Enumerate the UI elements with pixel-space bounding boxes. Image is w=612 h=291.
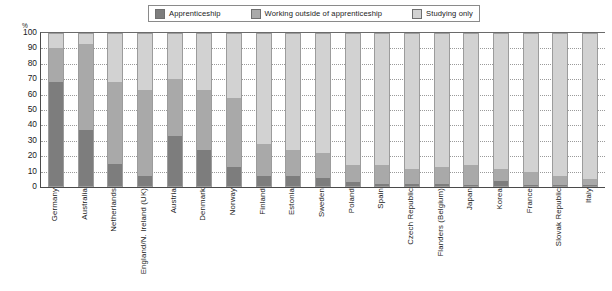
- bar-column[interactable]: [167, 33, 183, 187]
- bar-segment: [552, 185, 568, 187]
- bar-segment: [404, 33, 420, 169]
- x-label-column: Italy: [581, 188, 597, 203]
- x-label-column: Spain: [373, 188, 389, 209]
- bar-segment: [78, 130, 94, 187]
- x-tick-label: Czech Republic: [407, 188, 415, 245]
- bar-segment: [463, 165, 479, 185]
- bar-segment: [285, 150, 301, 176]
- bar-segment: [137, 33, 153, 90]
- bar-segment: [463, 33, 479, 165]
- bar-column[interactable]: [256, 33, 272, 187]
- bar-segment: [196, 90, 212, 150]
- x-label-column: Korea: [492, 188, 508, 210]
- legend-swatch-studying-only: [412, 9, 422, 19]
- legend-item-studying-only: Studying only: [412, 9, 473, 19]
- x-tick-label: Poland: [348, 188, 356, 213]
- bar-segment: [404, 184, 420, 187]
- bar-column[interactable]: [107, 33, 123, 187]
- x-tick-label: Spain: [377, 188, 385, 209]
- plot-area: [40, 32, 605, 188]
- bar-segment: [167, 33, 183, 79]
- x-label-column: Australia: [77, 188, 93, 220]
- chart-legend: Apprenticeship Working outside of appren…: [148, 5, 480, 22]
- bar-column[interactable]: [345, 33, 361, 187]
- bar-column[interactable]: [78, 33, 94, 187]
- x-tick-label: Finland: [259, 188, 267, 215]
- bar-segment: [552, 33, 568, 176]
- bar-segment: [345, 33, 361, 165]
- bar-segment: [523, 33, 539, 172]
- x-label-column: France: [522, 188, 538, 213]
- bar-segment: [374, 33, 390, 165]
- y-tick-label: 0: [4, 181, 40, 191]
- legend-label-studying-only: Studying only: [426, 9, 473, 18]
- bar-segment: [256, 33, 272, 144]
- bar-column[interactable]: [196, 33, 212, 187]
- x-tick-label: Norway: [229, 188, 237, 215]
- bar-column[interactable]: [552, 33, 568, 187]
- bar-segment: [226, 98, 242, 167]
- x-label-column: Poland: [344, 188, 360, 213]
- bar-segment: [226, 33, 242, 98]
- bar-segment: [256, 176, 272, 187]
- y-tick-label: 70: [4, 73, 40, 83]
- legend-label-working-outside: Working outside of apprenticeship: [265, 9, 383, 18]
- x-tick-label: Flanders (Belgium): [437, 188, 445, 257]
- bar-segment: [552, 176, 568, 185]
- bar-segment: [107, 33, 123, 82]
- bar-column[interactable]: [374, 33, 390, 187]
- bar-segment: [167, 79, 183, 136]
- bar-segment: [285, 176, 301, 187]
- bar-segment: [315, 178, 331, 187]
- bar-segment: [434, 167, 450, 184]
- bar-group: [41, 33, 605, 187]
- y-tick-label: 80: [4, 58, 40, 68]
- bar-column[interactable]: [137, 33, 153, 187]
- bar-segment: [226, 167, 242, 187]
- bar-column[interactable]: [463, 33, 479, 187]
- x-label-column: Finland: [255, 188, 271, 215]
- y-axis-tick-labels: 0102030405060708090100: [0, 32, 40, 186]
- x-tick-label: Slovak Republic: [555, 188, 563, 246]
- y-tick-label: 10: [4, 166, 40, 176]
- x-label-column: Norway: [225, 188, 241, 215]
- bar-segment: [523, 172, 539, 186]
- y-tick-label: 40: [4, 119, 40, 129]
- x-label-column: Sweden: [314, 188, 330, 217]
- bar-segment: [78, 44, 94, 130]
- bar-segment: [167, 136, 183, 187]
- bar-segment: [196, 150, 212, 187]
- bar-column[interactable]: [226, 33, 242, 187]
- bar-segment: [493, 169, 509, 181]
- bar-column[interactable]: [315, 33, 331, 187]
- bar-column[interactable]: [285, 33, 301, 187]
- plot-wrapper: % 0102030405060708090100: [0, 22, 612, 192]
- bar-segment: [137, 176, 153, 187]
- bar-column[interactable]: [48, 33, 64, 187]
- bar-segment: [107, 82, 123, 164]
- bar-segment: [374, 184, 390, 187]
- legend-swatch-working-outside: [251, 9, 261, 19]
- stacked-bar-chart: Apprenticeship Working outside of appren…: [0, 0, 612, 291]
- bar-segment: [107, 164, 123, 187]
- legend-item-apprenticeship: Apprenticeship: [155, 9, 221, 19]
- x-label-column: Germany: [47, 188, 63, 221]
- bar-segment: [48, 33, 64, 48]
- bar-segment: [196, 33, 212, 90]
- bar-segment: [523, 185, 539, 187]
- bar-segment: [48, 82, 64, 187]
- x-label-column: England/N. Ireland (UK): [136, 188, 152, 274]
- bar-column[interactable]: [582, 33, 598, 187]
- legend-item-working-outside: Working outside of apprenticeship: [251, 9, 383, 19]
- y-tick-label: 30: [4, 135, 40, 145]
- bar-segment: [48, 48, 64, 82]
- bar-column[interactable]: [434, 33, 450, 187]
- bar-segment: [582, 185, 598, 187]
- x-tick-label: England/N. Ireland (UK): [140, 188, 148, 274]
- bar-column[interactable]: [404, 33, 420, 187]
- bar-column[interactable]: [493, 33, 509, 187]
- bar-column[interactable]: [523, 33, 539, 187]
- bar-segment: [315, 33, 331, 153]
- bar-segment: [137, 90, 153, 176]
- x-tick-label: Italy: [585, 188, 593, 203]
